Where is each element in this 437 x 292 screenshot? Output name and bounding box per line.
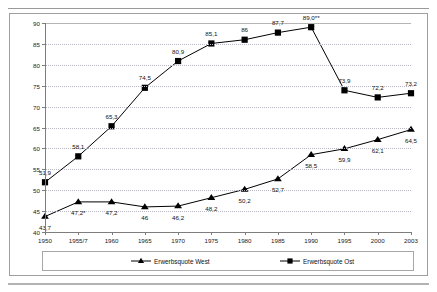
data-point-label: 48,2 xyxy=(205,205,217,212)
y-tick-label-60: 60 xyxy=(33,145,40,152)
chart-page: 404550556065707580859019501955/719601965… xyxy=(0,0,437,292)
legend-label-ost: Erwerbsquote Ost xyxy=(303,258,354,265)
x-tick-label-1985: 1985 xyxy=(271,237,285,244)
data-point-label: 62,1 xyxy=(372,147,384,154)
series-line-0 xyxy=(45,130,411,217)
x-tick-label-1955/7: 1955/7 xyxy=(69,237,88,244)
y-tick-label-80: 80 xyxy=(33,61,40,68)
data-point-label: 89,0** xyxy=(303,13,320,20)
data-point-label: 47,2* xyxy=(71,209,85,216)
gridline-85 xyxy=(45,44,411,45)
data-point-marker xyxy=(275,30,281,36)
x-tick-label-1970: 1970 xyxy=(171,237,185,244)
y-tick-label-90: 90 xyxy=(33,20,40,27)
gridline-65 xyxy=(45,128,411,129)
data-point-marker xyxy=(242,37,248,43)
x-tick-label-1950: 1950 xyxy=(38,237,52,244)
data-point-label: 59,9 xyxy=(338,156,350,163)
data-point-label: 73,2 xyxy=(405,79,417,86)
data-point-label: 52,7 xyxy=(272,186,284,193)
y-tick-label-65: 65 xyxy=(33,124,40,131)
chart-frame: 404550556065707580859019501955/719601965… xyxy=(9,13,428,276)
y-tick-label-50: 50 xyxy=(33,187,40,194)
data-point-label: 64,5 xyxy=(405,137,417,144)
data-point-label: 58,1 xyxy=(72,142,84,149)
gridline-50 xyxy=(45,190,411,191)
data-point-marker xyxy=(108,198,116,204)
triangle-marker-icon xyxy=(131,257,151,266)
data-point-label: 80,9 xyxy=(172,47,184,54)
x-tick-label-1960: 1960 xyxy=(105,237,119,244)
gridline-70 xyxy=(45,107,411,108)
data-point-label: 46 xyxy=(141,214,148,221)
gridline-45 xyxy=(45,211,411,212)
y-tick-label-85: 85 xyxy=(33,40,40,47)
series-line-1 xyxy=(45,27,411,182)
data-point-marker xyxy=(274,175,282,181)
gridline-80 xyxy=(45,65,411,66)
x-tick-label-2003: 2003 xyxy=(404,237,418,244)
data-point-marker xyxy=(341,87,347,93)
data-point-marker xyxy=(175,58,181,64)
data-point-label: 87,7 xyxy=(272,19,284,26)
data-point-label: 46,2 xyxy=(172,213,184,220)
data-point-marker xyxy=(74,198,82,204)
data-point-label: 86 xyxy=(241,26,248,33)
x-tick-label-1995: 1995 xyxy=(338,237,352,244)
data-point-label: 47,2 xyxy=(106,209,118,216)
y-tick-label-45: 45 xyxy=(33,208,40,215)
data-point-label: 74,5 xyxy=(139,74,151,81)
data-point-label: 72,2 xyxy=(372,83,384,90)
y-tick-label-75: 75 xyxy=(33,82,40,89)
gridline-60 xyxy=(45,148,411,149)
x-tick-label-1980: 1980 xyxy=(238,237,252,244)
x-tick-label-1990: 1990 xyxy=(304,237,318,244)
gridline-90 xyxy=(45,23,411,24)
data-point-label: 73,9 xyxy=(338,76,350,83)
legend-item-erwerbsquote-west: Erwerbsquote West xyxy=(131,257,210,266)
data-point-label: 58,5 xyxy=(305,162,317,169)
data-point-label: 50,2 xyxy=(239,196,251,203)
data-point-marker xyxy=(408,90,414,96)
data-point-marker xyxy=(375,94,381,100)
x-tick-label-1965: 1965 xyxy=(138,237,152,244)
bottom-divider-rule xyxy=(8,283,429,285)
y-axis-line xyxy=(45,23,46,232)
top-divider-rule xyxy=(8,8,429,9)
y-tick-label-70: 70 xyxy=(33,103,40,110)
square-marker-icon xyxy=(280,257,300,266)
data-point-label: 85,1 xyxy=(205,29,217,36)
x-axis-line xyxy=(45,232,411,233)
legend-item-erwerbsquote-ost: Erwerbsquote Ost xyxy=(280,257,354,266)
gridline-75 xyxy=(45,86,411,87)
data-point-marker xyxy=(308,24,314,30)
x-tick-mark-2003 xyxy=(411,232,412,235)
x-tick-label-1975: 1975 xyxy=(204,237,218,244)
x-tick-label-2000: 2000 xyxy=(371,237,385,244)
data-point-marker xyxy=(75,153,81,159)
gridline-55 xyxy=(45,169,411,170)
data-point-label: 65,3 xyxy=(106,112,118,119)
plot-area: 404550556065707580859019501955/719601965… xyxy=(45,23,411,232)
chart-legend: Erwerbsquote West Erwerbsquote Ost xyxy=(42,251,414,271)
legend-label-west: Erwerbsquote West xyxy=(154,258,210,265)
